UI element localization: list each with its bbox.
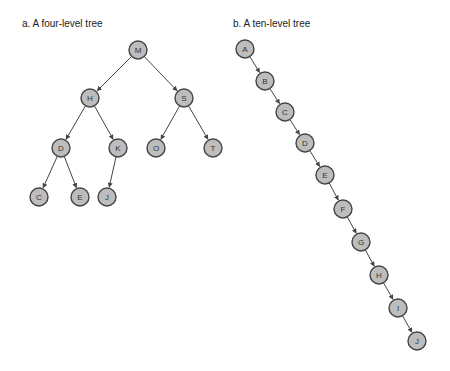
- edge-b-to-c: [270, 89, 280, 104]
- tree-node-four-level-m: M: [129, 41, 147, 59]
- edge-h-to-d: [66, 106, 85, 140]
- node-label: O: [153, 144, 159, 153]
- tree-node-ten-level-c: C: [276, 103, 294, 121]
- tree-node-four-level-t: T: [204, 139, 222, 157]
- tree-node-four-level-s: S: [175, 89, 193, 107]
- edge-d-to-c: [43, 156, 57, 188]
- node-label: C: [36, 193, 42, 202]
- edge-d-to-e: [310, 151, 320, 167]
- tree-node-four-level-c: C: [30, 188, 48, 206]
- node-label: D: [58, 144, 64, 153]
- tree-node-four-level-j: J: [98, 188, 116, 206]
- node-label: H: [87, 94, 93, 103]
- tree-node-four-level-d: D: [52, 139, 70, 157]
- edge-f-to-g: [347, 217, 356, 233]
- tree-node-four-level-o: O: [147, 139, 165, 157]
- tree-node-ten-level-j: J: [408, 332, 426, 350]
- edge-m-to-s: [144, 56, 177, 90]
- edge-a-to-b: [250, 57, 260, 73]
- node-label: C: [282, 108, 288, 117]
- edge-h-to-k: [94, 106, 113, 139]
- edge-k-to-j: [109, 157, 116, 187]
- tree-node-ten-level-i: I: [389, 299, 407, 317]
- node-label: S: [181, 94, 186, 103]
- edge-g-to-h: [365, 250, 374, 266]
- node-label: J: [415, 337, 419, 346]
- tree-node-ten-level-b: B: [256, 72, 274, 90]
- edge-m-to-h: [97, 56, 132, 91]
- node-label: T: [211, 144, 216, 153]
- node-label: M: [135, 46, 142, 55]
- edge-i-to-j: [402, 316, 412, 333]
- node-label: J: [105, 193, 109, 202]
- edge-h-to-i: [383, 283, 393, 300]
- node-label: A: [242, 45, 248, 54]
- edge-e-to-f: [329, 183, 338, 200]
- tree-node-four-level-e: E: [71, 188, 89, 206]
- node-label: E: [77, 193, 82, 202]
- tree-node-four-level-k: K: [109, 139, 127, 157]
- edge-s-to-t: [189, 106, 208, 140]
- edge-d-to-e: [64, 156, 76, 187]
- tree-node-ten-level-f: F: [334, 200, 352, 218]
- tree-node-ten-level-g: G: [352, 233, 370, 251]
- node-label: K: [115, 144, 121, 153]
- tree-node-ten-level-e: E: [316, 166, 334, 184]
- node-label: G: [358, 238, 364, 247]
- tree-diagrams: MHSDKOTCEJABCDEFGHIJ: [0, 0, 450, 371]
- node-label: B: [262, 77, 267, 86]
- tree-node-ten-level-d: D: [296, 134, 314, 152]
- edge-c-to-d: [290, 120, 300, 135]
- nodes-layer: MHSDKOTCEJABCDEFGHIJ: [30, 40, 426, 350]
- node-label: F: [341, 205, 346, 214]
- node-label: I: [397, 304, 399, 313]
- node-label: E: [322, 171, 327, 180]
- edge-s-to-o: [161, 106, 180, 139]
- tree-node-ten-level-h: H: [370, 266, 388, 284]
- node-label: H: [376, 271, 382, 280]
- node-label: D: [302, 139, 308, 148]
- tree-node-ten-level-a: A: [236, 40, 254, 58]
- tree-node-four-level-h: H: [81, 89, 99, 107]
